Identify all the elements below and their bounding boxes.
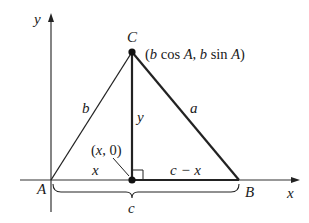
base-brace-label: c — [128, 200, 135, 216]
y-axis-label: y — [32, 11, 41, 27]
foot-point-label: (x, 0) — [91, 142, 122, 159]
left-segment-label: x — [91, 162, 99, 178]
side-a-label: a — [190, 100, 198, 116]
base-brace — [53, 184, 239, 198]
x-axis-label: x — [286, 185, 294, 201]
side-b — [51, 52, 132, 180]
side-b-label: b — [82, 100, 90, 116]
foot-leader-line — [113, 158, 129, 176]
diagram-svg: y x A B C (b cos A, b sin A) b a y (x, 0… — [0, 0, 309, 223]
vertex-c-label: C — [127, 29, 138, 45]
x-axis-arrow-icon — [291, 177, 300, 183]
vertex-b-label: B — [245, 184, 254, 200]
y-axis-arrow-icon — [48, 13, 54, 22]
vertex-c-coordinates: (b cos A, b sin A) — [145, 46, 245, 63]
vertex-a-label: A — [36, 181, 47, 197]
triangle-diagram: y x A B C (b cos A, b sin A) b a y (x, 0… — [0, 0, 309, 223]
right-segment-label: c − x — [170, 162, 201, 178]
altitude-label: y — [135, 109, 144, 125]
point-foot — [128, 176, 135, 183]
point-c — [128, 48, 135, 55]
side-a — [132, 52, 239, 180]
